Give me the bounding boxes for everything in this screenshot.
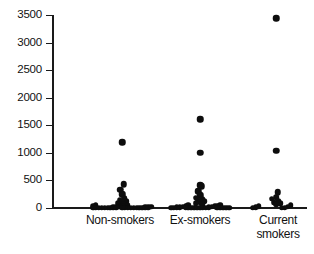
y-tick-500 [46,180,52,181]
data-point [197,149,204,156]
data-point [273,201,279,207]
y-tick-2500 [46,70,52,71]
y-tick-1000 [46,153,52,154]
y-tick-2000 [46,98,52,99]
data-point [250,205,256,211]
y-tick-label-3000: 3000 [17,37,42,49]
x-axis-label-ex-smokers: Ex-smokers [160,214,240,228]
data-point [119,139,126,146]
y-axis-line [52,15,54,209]
y-tick-1500 [46,125,52,126]
data-point [215,205,221,211]
scatter-plot-figure: 0500100015002000250030003500 Non-smokers… [0,0,314,254]
y-tick-label-2000: 2000 [17,92,42,104]
data-point [183,205,189,211]
data-point [273,15,280,22]
data-point [279,205,285,211]
x-axis-label-non-smokers: Non-smokers [74,214,166,228]
y-tick-label-0: 0 [36,202,42,214]
y-tick-label-2500: 2500 [17,64,42,76]
x-axis-label-current-smokers: Current smokers [248,214,308,241]
y-tick-label-1500: 1500 [17,119,42,131]
y-tick-3000 [46,43,52,44]
data-point [168,205,174,211]
y-tick-label-500: 500 [23,174,42,186]
y-tick-label-1000: 1000 [17,147,42,159]
y-tick-3500 [46,15,52,16]
data-point [197,116,204,123]
data-point [90,205,96,211]
data-point [273,148,280,155]
y-tick-label-3500: 3500 [17,9,42,21]
y-tick-0 [46,208,52,209]
data-point [119,205,125,211]
